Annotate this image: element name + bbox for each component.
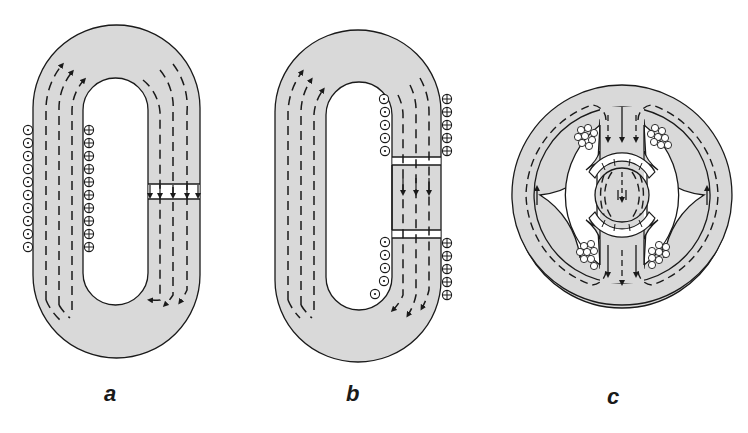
air-gap-a <box>149 184 200 199</box>
magnetic-circuits-diagram <box>0 0 748 433</box>
coils-out-a <box>23 125 32 251</box>
panel-a <box>23 25 200 358</box>
coils-in-b <box>442 94 451 299</box>
coils-out-b <box>370 94 389 298</box>
coils-in-a <box>84 125 93 251</box>
panel-b <box>275 30 452 362</box>
panel-label-c: c <box>607 384 619 410</box>
panel-label-b: b <box>346 381 359 407</box>
panel-c <box>512 85 732 308</box>
panel-label-a: a <box>104 381 116 407</box>
